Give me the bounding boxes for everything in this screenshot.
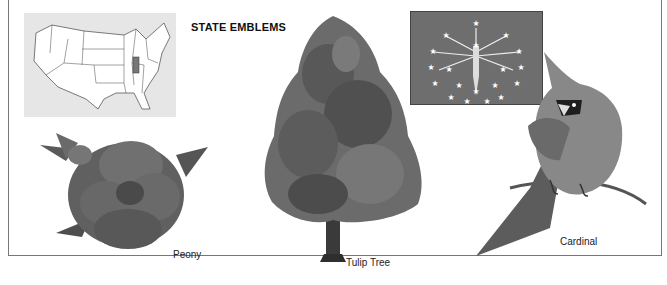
us-map-icon [24,13,176,117]
svg-text:★: ★ [445,65,452,74]
svg-text:★: ★ [455,81,462,90]
cardinal-bird-image [470,48,650,263]
peony-label: Peony [173,249,201,260]
svg-text:★: ★ [427,63,434,72]
indiana-highlight [133,57,139,73]
svg-text:★: ★ [502,31,509,40]
svg-text:★: ★ [472,19,479,28]
us-map-image [24,13,176,117]
cardinal-label: Cardinal [560,236,597,247]
tulip-tree-image [258,14,426,266]
svg-text:★: ★ [447,93,454,102]
tulip-tree-label: Tulip Tree [346,257,390,268]
svg-text:★: ★ [442,31,449,40]
svg-text:★: ★ [429,47,436,56]
svg-text:★: ★ [431,79,438,88]
peony-flower-image [36,125,211,260]
